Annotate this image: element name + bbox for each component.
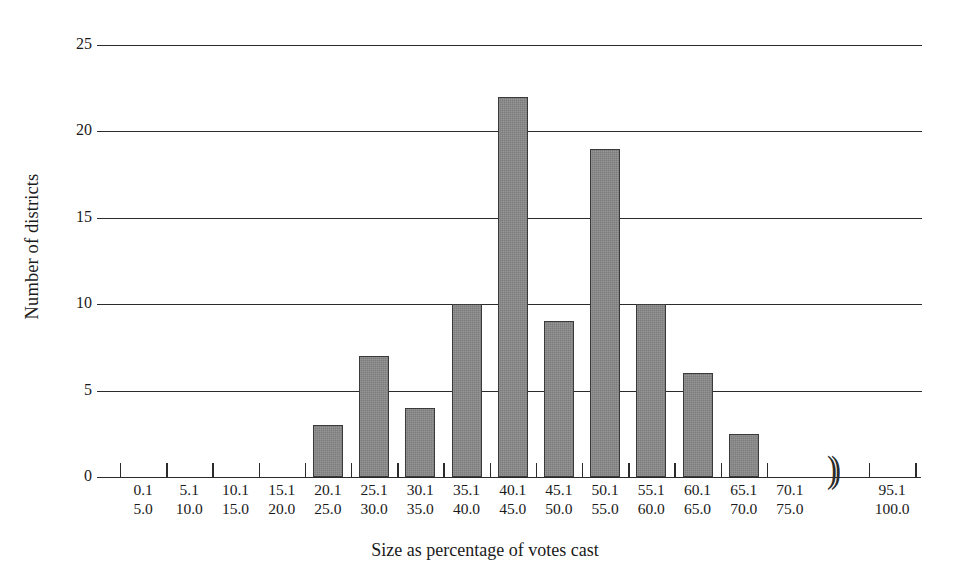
histogram-bar xyxy=(729,434,759,477)
y-tick-label: 10 xyxy=(58,295,92,311)
x-tick-mark xyxy=(536,463,537,477)
x-tick-mark xyxy=(674,463,675,477)
y-tick-label: 0 xyxy=(58,468,92,484)
bin-lower-bound: 95.1 xyxy=(860,481,924,500)
y-tick-label: 5 xyxy=(58,382,92,398)
histogram-bar xyxy=(498,97,528,477)
x-tick-mark xyxy=(582,463,583,477)
histogram-bar xyxy=(590,149,620,477)
histogram-bar xyxy=(313,425,343,477)
x-tick-mark xyxy=(259,463,260,477)
histogram-bar xyxy=(359,356,389,477)
x-tick-mark xyxy=(443,463,444,477)
x-tick-mark xyxy=(767,463,768,477)
x-tick-mark xyxy=(490,463,491,477)
x-tick-mark xyxy=(166,463,167,477)
x-tick-mark xyxy=(351,463,352,477)
bin-upper-bound: 75.0 xyxy=(758,500,822,519)
histogram-bar xyxy=(636,304,666,477)
x-tick-label: 70.175.0 xyxy=(758,481,822,518)
x-tick-label: 95.1100.0 xyxy=(860,481,924,518)
x-tick-mark xyxy=(212,463,213,477)
histogram-bar xyxy=(683,373,713,477)
y-tick-label: 20 xyxy=(58,122,92,138)
x-tick-mark xyxy=(305,463,306,477)
y-tick-label: 15 xyxy=(58,209,92,225)
plot-area xyxy=(104,45,922,477)
x-tick-mark xyxy=(915,463,916,477)
y-axis-title: Number of districts xyxy=(22,137,43,357)
x-axis-line xyxy=(104,477,921,478)
bin-lower-bound: 70.1 xyxy=(758,481,822,500)
histogram-bar xyxy=(452,304,482,477)
histogram-figure: Number of districts 0510152025 0.15.05.1… xyxy=(0,0,970,588)
histogram-bar xyxy=(544,321,574,477)
x-tick-mark xyxy=(869,463,870,477)
bin-upper-bound: 100.0 xyxy=(860,500,924,519)
x-tick-mark xyxy=(721,463,722,477)
y-tick-label: 25 xyxy=(58,36,92,52)
axis-break-icon: )) xyxy=(827,453,835,486)
x-axis-title: Size as percentage of votes cast xyxy=(0,540,970,561)
x-tick-mark xyxy=(397,463,398,477)
x-tick-mark xyxy=(120,463,121,477)
histogram-bar xyxy=(405,408,435,477)
x-tick-mark xyxy=(628,463,629,477)
